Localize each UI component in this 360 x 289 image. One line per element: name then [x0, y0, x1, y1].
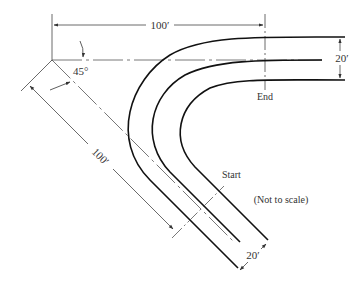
- bottom-width-label: 20′: [246, 249, 259, 261]
- angle-arrow-bottom: [50, 82, 70, 90]
- start-label: Start: [222, 169, 241, 180]
- start-line: [172, 186, 224, 238]
- not-to-scale-note: (Not to scale): [254, 194, 308, 206]
- road-outer-edge: [128, 37, 345, 268]
- right-width-label: 20′: [335, 52, 348, 64]
- angle-arrow-top: [80, 41, 83, 57]
- top-length-label: 100′: [151, 19, 170, 31]
- angle-label: 45°: [73, 65, 88, 77]
- end-label: End: [257, 91, 273, 102]
- road-curve-diagram: 100′ End 45° 100′ Start 20′ 20′ (Not to …: [0, 0, 360, 289]
- diagonal-centerline: [52, 60, 234, 242]
- road-inner-edge: [180, 80, 345, 240]
- diag-length-label: 100′: [90, 145, 112, 167]
- diag-dimension-line-upper: [30, 86, 88, 144]
- diag-extension-top: [21, 60, 52, 91]
- diag-dimension-line-lower: [113, 169, 173, 229]
- road-centerline-curve: [152, 60, 322, 242]
